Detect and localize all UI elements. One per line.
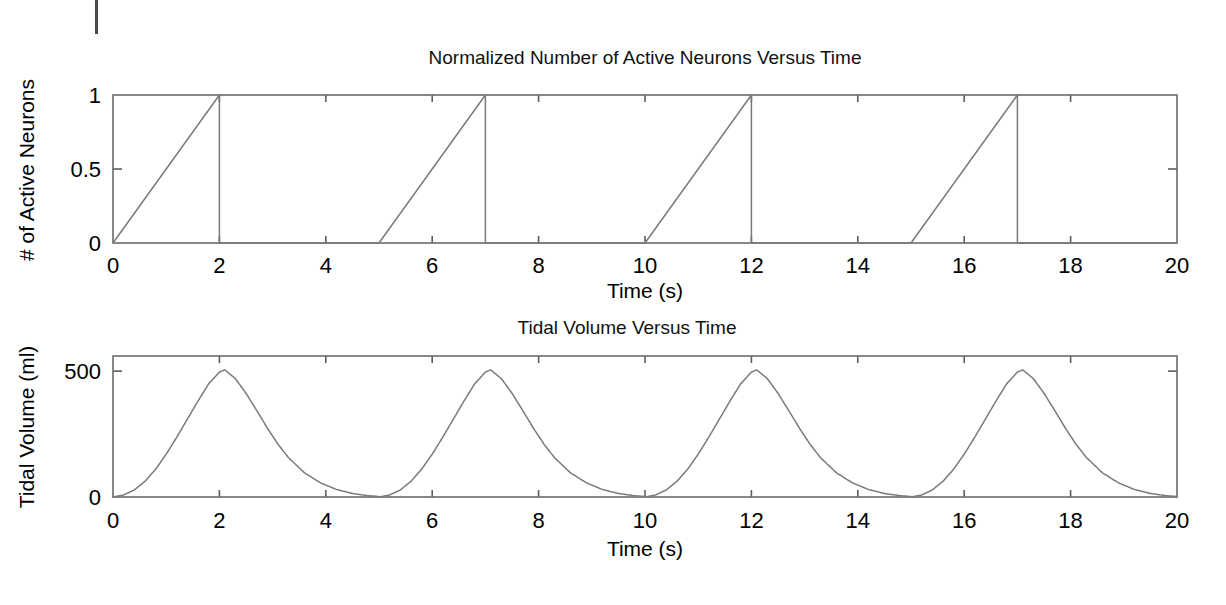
x-tick-label-20: 20 [1165, 508, 1189, 533]
x-tick-label-0: 0 [107, 253, 119, 278]
x-tick-label-4: 4 [320, 253, 332, 278]
x-tick-label-2: 2 [213, 253, 225, 278]
x-tick-label-8: 8 [532, 508, 544, 533]
figure-canvas: Normalized Number of Active Neurons Vers… [0, 0, 1226, 605]
x-tick-label-16: 16 [952, 253, 976, 278]
y-axis-label-active-neurons: # of Active Neurons [15, 79, 38, 261]
x-tick-label-16: 16 [952, 508, 976, 533]
x-tick-label-0: 0 [107, 508, 119, 533]
y-tick-label-0: 0 [89, 485, 101, 510]
x-tick-label-8: 8 [532, 253, 544, 278]
x-tick-label-10: 10 [633, 508, 657, 533]
x-axis-label-active-neurons: Time (s) [607, 279, 683, 302]
y-tick-label-500: 500 [64, 359, 101, 384]
x-tick-label-18: 18 [1058, 508, 1082, 533]
scan-edge-mark-icon [95, 0, 98, 34]
x-tick-label-12: 12 [739, 508, 763, 533]
figure-background [0, 0, 1226, 605]
multi-panel-plot: Normalized Number of Active Neurons Vers… [0, 0, 1226, 605]
x-tick-label-14: 14 [846, 253, 870, 278]
x-tick-label-6: 6 [426, 508, 438, 533]
y-axis-label-tidal-volume: Tidal Volume (ml) [15, 346, 38, 509]
x-axis-label-tidal-volume: Time (s) [607, 537, 683, 560]
y-tick-label-0: 0 [89, 231, 101, 256]
x-tick-label-6: 6 [426, 253, 438, 278]
x-tick-label-10: 10 [633, 253, 657, 278]
panel-title-active-neurons: Normalized Number of Active Neurons Vers… [429, 47, 862, 68]
x-tick-label-2: 2 [213, 508, 225, 533]
panel-title-tidal-volume: Tidal Volume Versus Time [518, 317, 737, 338]
y-tick-label-1: 1 [89, 83, 101, 108]
x-tick-label-18: 18 [1058, 253, 1082, 278]
x-tick-label-20: 20 [1165, 253, 1189, 278]
x-tick-label-14: 14 [846, 508, 870, 533]
y-tick-label-0.5: 0.5 [70, 157, 101, 182]
x-tick-label-4: 4 [320, 508, 332, 533]
x-tick-label-12: 12 [739, 253, 763, 278]
